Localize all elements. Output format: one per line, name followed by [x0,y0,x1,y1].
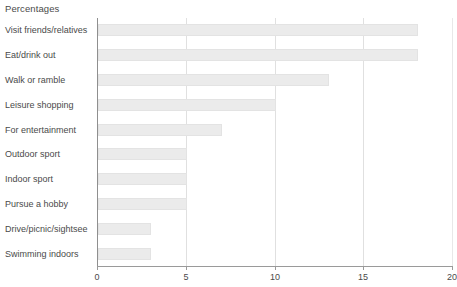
category-label: Drive/picnic/sightsee [5,224,88,235]
bar [98,74,329,86]
chart-title: Percentages [5,3,59,15]
category-label: For entertainment [5,125,76,136]
x-tick-mark-10 [275,266,276,270]
category-label: Indoor sport [5,174,53,185]
x-tick-label-20: 20 [447,272,457,283]
x-tick-mark-15 [363,266,364,270]
x-tick-label-5: 5 [183,272,188,283]
category-label: Eat/drink out [5,50,56,61]
bar [98,148,187,160]
x-tick-mark-20 [452,266,453,270]
category-label: Walk or ramble [5,75,65,86]
bar [98,24,418,36]
bar [98,248,151,260]
x-tick-mark-0 [97,266,98,270]
x-tick-mark-5 [186,266,187,270]
bar [98,223,151,235]
x-tick-label-10: 10 [270,272,280,283]
x-tick-label-0: 0 [94,272,99,283]
x-tick-label-15: 15 [358,272,368,283]
bar [98,198,187,210]
bar [98,124,222,136]
category-label: Leisure shopping [5,100,74,111]
bar [98,173,187,185]
category-label: Visit friends/relatives [5,25,87,36]
plot-area: 05101520 [97,18,452,266]
category-label: Outdoor sport [5,149,60,160]
category-label: Pursue a hobby [5,199,68,210]
bar [98,49,418,61]
plot-frame-right [452,18,453,266]
category-label: Swimming indoors [5,249,79,260]
bar [98,99,276,111]
